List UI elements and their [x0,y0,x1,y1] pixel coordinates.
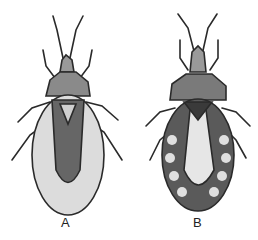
insect-b-drawing [146,14,250,211]
insects-illustration [0,0,258,240]
illustration-figure: A B [0,0,258,240]
panel-label-b: B [193,215,202,230]
panel-label-a: A [61,215,70,230]
insect-a-drawing [12,16,122,215]
